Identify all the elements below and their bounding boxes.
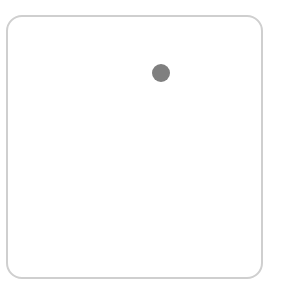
dot-icon	[152, 64, 170, 82]
rounded-square-frame	[6, 15, 263, 279]
canvas	[0, 0, 289, 285]
